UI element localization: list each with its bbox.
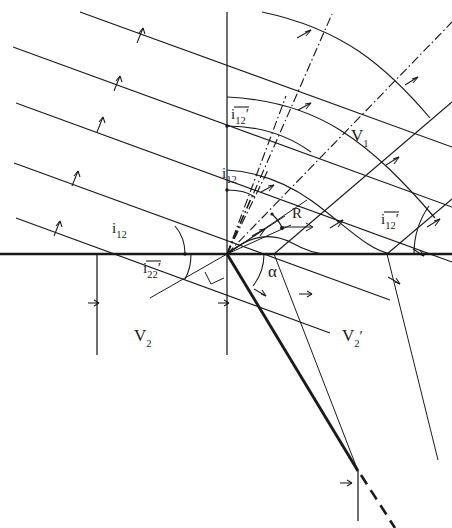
refracted-wavefront-2 (227, 97, 435, 218)
tick-arrow (297, 30, 311, 38)
label-i22prime: i22′ (143, 260, 161, 280)
svg-text:i12′: i12′ (231, 106, 249, 126)
refracted-wavefront-1 (262, 12, 430, 118)
tick-arrow (405, 77, 418, 85)
arc-alpha (253, 254, 264, 286)
tick-arrow (114, 76, 122, 91)
tick-arrow (97, 117, 105, 132)
lower-direction-ticks (88, 249, 424, 486)
right-angle-marker (205, 272, 224, 284)
svg-text:i12: i12 (222, 165, 237, 185)
label-i12-upper: i12 (222, 165, 237, 185)
ray-dashdot-group (227, 14, 452, 254)
tick-arrow (386, 157, 399, 165)
tick-arrow (340, 480, 352, 486)
tick-arrow (298, 103, 311, 110)
arc-dot (225, 188, 229, 192)
arc-dot (225, 124, 229, 128)
transmitted-ray-group (227, 254, 438, 471)
arc-dot (183, 252, 187, 256)
tick-arrow (299, 291, 312, 297)
label-i12-left: i12 (112, 220, 127, 240)
svg-text:R: R (292, 205, 302, 221)
tick-arrow (427, 219, 440, 227)
svg-text:α: α (268, 262, 277, 281)
transmitted-ray-v2prime-left (274, 254, 358, 471)
arc-R-start-dot (270, 212, 273, 215)
incident-wavefront-5 (16, 218, 330, 333)
diagram-canvas: i12 i12 i12′ i12′ i22′ V1 V2 (0, 0, 452, 528)
bottom-dashed-continuation (361, 475, 395, 528)
svg-text:V2′: V2′ (342, 326, 363, 349)
tick-arrow (261, 185, 274, 192)
refracted-wavefront-3 (227, 170, 392, 254)
label-v2: V2 (134, 326, 152, 349)
incident-wavefront-1 (80, 12, 452, 147)
svg-text:i12: i12 (112, 220, 127, 240)
svg-text:V2: V2 (134, 326, 152, 349)
arc-R-endpoint-dot (280, 226, 284, 230)
label-ray-vector-r: R (292, 205, 302, 221)
label-alpha: α (268, 262, 277, 281)
incident-direction-ticks (54, 28, 145, 236)
ray-dashdot-2 (227, 22, 452, 254)
arc-i12-left (175, 226, 185, 254)
label-i12prime-right: i12′ (381, 211, 399, 231)
label-i12prime-upper: i12′ (231, 106, 249, 126)
transmitted-ray-thick (227, 254, 358, 471)
tick-arrow (72, 171, 80, 186)
tick-arrow (254, 289, 266, 296)
label-v2-prime: V2′ (342, 326, 363, 349)
refraction-diagram-svg: i12 i12 i12′ i12′ i22′ V1 V2 (0, 0, 452, 528)
transmitted-ray-v2prime-right (387, 254, 438, 460)
label-v1: V1 (351, 126, 369, 149)
incident-wavefront-4 (14, 163, 390, 300)
svg-text:i12′: i12′ (381, 211, 399, 231)
svg-text:i22′: i22′ (143, 260, 161, 280)
svg-text:V1: V1 (351, 126, 369, 149)
